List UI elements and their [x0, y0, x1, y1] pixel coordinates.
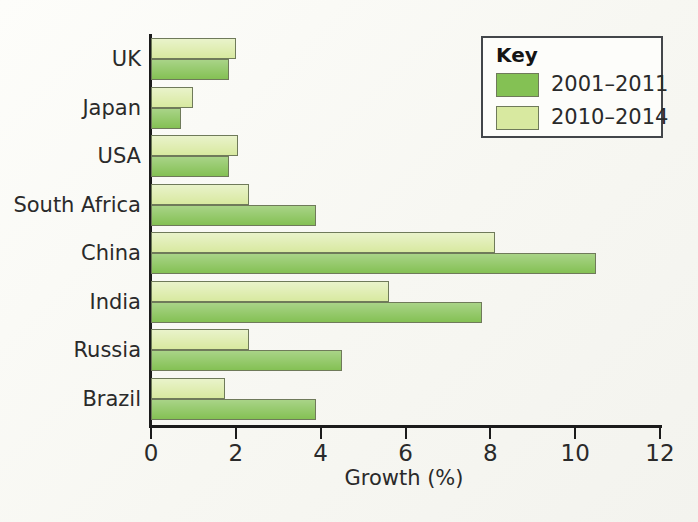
- bar-india-2010-2014: [151, 281, 389, 302]
- x-tick-12: [659, 428, 661, 439]
- x-tick-4: [320, 428, 322, 439]
- category-label-uk: UK: [112, 47, 141, 71]
- bar-china-2010-2014: [151, 232, 495, 253]
- bar-usa-2001-2011: [151, 156, 229, 177]
- x-axis-title: Growth (%): [0, 466, 698, 490]
- x-tick-2: [235, 428, 237, 439]
- legend-label-2010-2014: 2010–2014: [551, 105, 668, 129]
- bar-chart: 024681012 UKJapanUSASouth AfricaChinaInd…: [0, 0, 698, 522]
- x-tick-label-10: 10: [561, 440, 590, 466]
- x-tick-label-4: 4: [313, 440, 328, 466]
- category-label-brazil: Brazil: [82, 387, 141, 411]
- x-tick-10: [574, 428, 576, 439]
- x-tick-8: [489, 428, 491, 439]
- bar-russia-2010-2014: [151, 329, 249, 350]
- x-tick-label-0: 0: [144, 440, 159, 466]
- category-label-japan: Japan: [82, 96, 141, 120]
- bar-india-2001-2011: [151, 302, 482, 323]
- x-tick-label-12: 12: [645, 440, 674, 466]
- x-tick-label-6: 6: [398, 440, 413, 466]
- category-label-usa: USA: [98, 144, 141, 168]
- legend-title: Key: [496, 43, 538, 67]
- x-tick-6: [405, 428, 407, 439]
- bar-russia-2001-2011: [151, 350, 342, 371]
- bar-south-africa-2010-2014: [151, 184, 249, 205]
- bar-uk-2010-2014: [151, 38, 236, 59]
- bar-china-2001-2011: [151, 253, 596, 274]
- legend-box: Key 2001–2011 2010–2014: [481, 36, 663, 138]
- bar-brazil-2010-2014: [151, 378, 225, 399]
- bar-japan-2001-2011: [151, 108, 181, 129]
- bar-south-africa-2001-2011: [151, 205, 316, 226]
- category-label-india: India: [89, 290, 141, 314]
- bar-uk-2001-2011: [151, 59, 229, 80]
- bar-usa-2010-2014: [151, 135, 238, 156]
- category-label-russia: Russia: [73, 338, 141, 362]
- legend-label-2001-2011: 2001–2011: [551, 72, 668, 96]
- category-label-china: China: [81, 241, 141, 265]
- category-label-south-africa: South Africa: [13, 193, 141, 217]
- bar-brazil-2001-2011: [151, 399, 316, 420]
- legend-swatch-2001-2011: [496, 73, 539, 97]
- x-tick-label-2: 2: [229, 440, 244, 466]
- bar-japan-2010-2014: [151, 87, 193, 108]
- legend-swatch-2010-2014: [496, 106, 539, 130]
- x-tick-0: [150, 428, 152, 439]
- x-tick-label-8: 8: [483, 440, 498, 466]
